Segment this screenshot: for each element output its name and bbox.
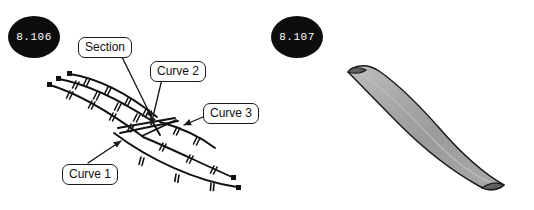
curve-b-mid xyxy=(67,71,157,117)
figure-number-badge-right: 8.107 xyxy=(271,16,323,58)
leader-section xyxy=(122,57,152,118)
curve-2-upper-sweep xyxy=(160,122,215,148)
callout-curve-3: Curve 3 xyxy=(203,103,259,124)
section-cross-member xyxy=(118,118,178,136)
shaded-lofted-surface xyxy=(348,66,504,190)
leader-curve1 xyxy=(88,141,121,163)
callout-curve-2: Curve 2 xyxy=(150,61,206,82)
curve-1-lower-arc xyxy=(114,133,241,191)
callout-curve-1: Curve 1 xyxy=(62,164,118,185)
figure-page: 8.106 8.107 Section Curve 2 Curve 3 Curv… xyxy=(0,0,534,210)
callout-section: Section xyxy=(78,37,132,58)
curve-a-top xyxy=(56,76,152,122)
leader-curve2 xyxy=(151,79,162,125)
blade-cap-start xyxy=(348,68,366,73)
leader-curve3 xyxy=(184,117,203,125)
figure-number-badge-left: 8.106 xyxy=(8,16,60,58)
blade-body xyxy=(348,66,504,190)
